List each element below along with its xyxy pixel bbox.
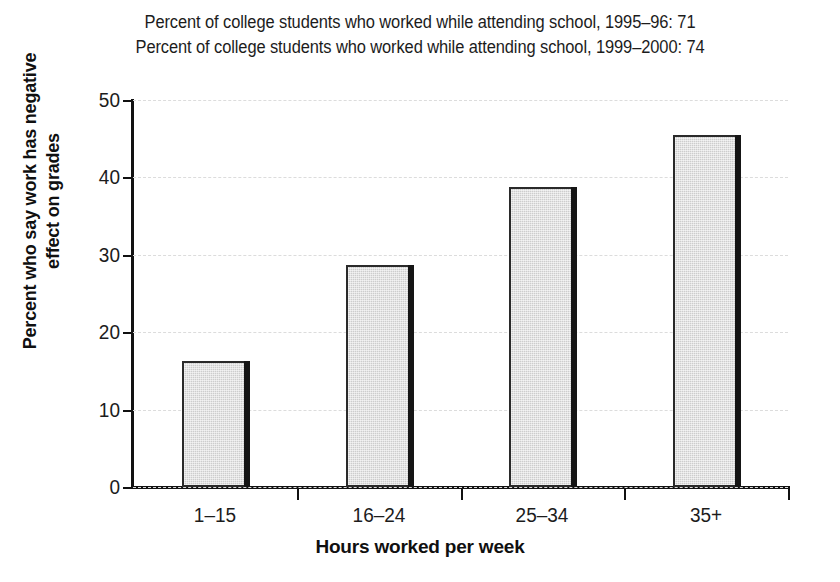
y-axis-tick-label: 0 (80, 477, 120, 497)
y-axis-tick-label: 40 (80, 167, 120, 187)
x-axis-tick (624, 489, 626, 500)
y-axis-tick-label: 10 (80, 400, 120, 420)
x-axis-title: Hours worked per week (0, 536, 840, 558)
y-axis-tick-label: 30 (80, 245, 120, 265)
y-axis-tick (123, 100, 132, 102)
y-axis-tick-labels: 01020304050 (70, 0, 120, 582)
chart-title-line-2: Percent of college students who worked w… (25, 35, 815, 60)
bar (673, 135, 735, 487)
gridline (133, 100, 788, 101)
x-axis-tick-label: 1–15 (158, 503, 272, 527)
bar-shadow (408, 265, 414, 487)
y-axis-tick (123, 255, 132, 257)
bar (346, 265, 408, 487)
y-axis-tick (123, 332, 132, 334)
y-axis-tick-label: 20 (80, 322, 120, 342)
y-axis-tick (123, 410, 132, 412)
bar-shadow (735, 135, 741, 487)
x-axis-tick (461, 489, 463, 500)
y-axis-tick-label: 50 (80, 90, 120, 110)
y-axis-title: Percent who say work has negative effect… (19, 0, 65, 411)
x-axis-tick-label: 16–24 (322, 503, 436, 527)
x-axis-tick (297, 489, 299, 500)
x-axis-tick-label: 25–34 (485, 503, 599, 527)
bar-shadow (244, 361, 250, 487)
bar (509, 187, 571, 487)
x-axis-tick (788, 489, 790, 500)
y-axis-title-line-1: Percent who say work has negative (19, 0, 42, 411)
gridline (133, 487, 788, 488)
bar-shadow (571, 187, 577, 487)
y-axis-tick (123, 487, 132, 489)
plot-area (133, 100, 788, 487)
y-axis-tick (123, 177, 132, 179)
chart-title-line-1: Percent of college students who worked w… (25, 10, 815, 35)
bar (182, 361, 244, 487)
y-axis-title-line-2: effect on grades (42, 0, 65, 411)
x-axis-tick-label: 35+ (649, 503, 763, 527)
chart-title-block: Percent of college students who worked w… (0, 10, 840, 60)
